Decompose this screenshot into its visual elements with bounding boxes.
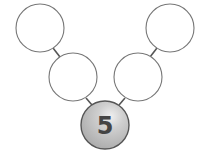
node-middle-left [49,53,97,101]
connector-top-left [53,48,60,57]
root-value: 5 [97,112,114,140]
connector-middle-left [86,98,92,105]
node-middle-right [114,53,162,101]
node-top-left [16,4,64,52]
number-bond-diagram: 5 [0,0,204,164]
node-top-right [146,4,194,52]
connector-middle-right [119,98,125,105]
connector-top-right [150,48,157,57]
